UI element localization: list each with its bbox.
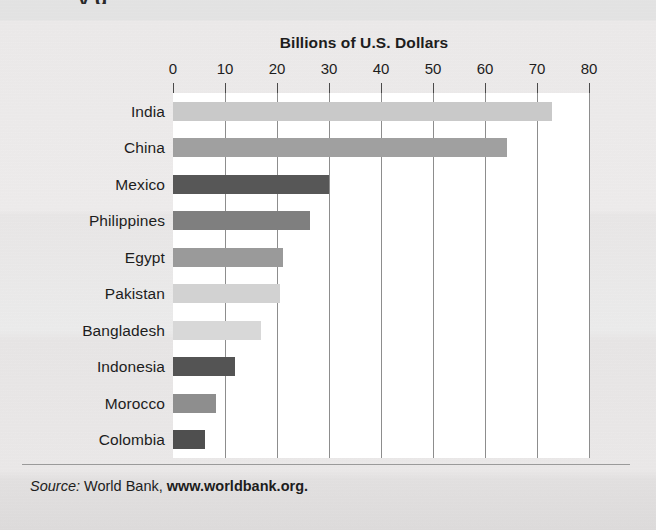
x-tick-mark xyxy=(173,83,174,93)
category-label-bangladesh: Bangladesh xyxy=(82,322,165,340)
chart-title: Billions of U.S. Dollars xyxy=(60,34,656,52)
source-url: www.worldbank.org. xyxy=(167,478,308,494)
x-axis-tick-labels: 01020304050607080 xyxy=(22,60,630,82)
source-label: Source: xyxy=(30,478,80,494)
bar-mexico xyxy=(173,175,329,194)
category-label-indonesia: Indonesia xyxy=(97,358,165,376)
category-label-india: India xyxy=(131,103,165,121)
x-tick-label: 70 xyxy=(529,60,546,77)
category-label-morocco: Morocco xyxy=(105,395,165,413)
cutoff-page-heading: y g xyxy=(78,0,108,4)
x-axis-tick-marks xyxy=(22,83,630,93)
x-tick-label: 10 xyxy=(217,60,234,77)
bar-pakistan xyxy=(173,284,280,303)
bar-china xyxy=(173,138,507,157)
x-tick-mark xyxy=(277,83,278,93)
bar-egypt xyxy=(173,248,283,267)
bar-morocco xyxy=(173,394,216,413)
bar-indonesia xyxy=(173,357,235,376)
category-label-pakistan: Pakistan xyxy=(105,285,165,303)
source-attribution: Source: World Bank, www.worldbank.org. xyxy=(30,478,308,494)
plot-wrapper: 01020304050607080 IndiaChinaMexicoPhilip… xyxy=(22,60,630,458)
x-tick-label: 80 xyxy=(581,60,598,77)
gridline xyxy=(537,93,538,458)
source-organization: World Bank, xyxy=(84,478,163,494)
category-label-egypt: Egypt xyxy=(125,249,165,267)
bar-bangladesh xyxy=(173,321,261,340)
chart-figure: Billions of U.S. Dollars 010203040506070… xyxy=(22,26,630,504)
x-tick-mark xyxy=(433,83,434,93)
x-tick-label: 30 xyxy=(321,60,338,77)
x-tick-mark xyxy=(589,83,590,93)
bar-philippines xyxy=(173,211,310,230)
y-axis-category-labels: IndiaChinaMexicoPhilippinesEgyptPakistan… xyxy=(22,93,170,458)
category-label-colombia: Colombia xyxy=(99,431,165,449)
x-tick-mark xyxy=(225,83,226,93)
x-tick-label: 60 xyxy=(477,60,494,77)
category-label-philippines: Philippines xyxy=(89,212,165,230)
source-divider xyxy=(22,464,630,465)
category-label-china: China xyxy=(124,139,165,157)
x-tick-mark xyxy=(485,83,486,93)
category-label-mexico: Mexico xyxy=(115,176,165,194)
x-tick-label: 50 xyxy=(425,60,442,77)
x-tick-label: 20 xyxy=(269,60,286,77)
x-tick-mark xyxy=(329,83,330,93)
plot-area xyxy=(173,93,589,458)
x-tick-label: 40 xyxy=(373,60,390,77)
bar-india xyxy=(173,102,552,121)
x-tick-mark xyxy=(381,83,382,93)
x-tick-mark xyxy=(537,83,538,93)
bar-colombia xyxy=(173,430,205,449)
x-tick-label: 0 xyxy=(169,60,177,77)
gridline xyxy=(589,93,590,458)
